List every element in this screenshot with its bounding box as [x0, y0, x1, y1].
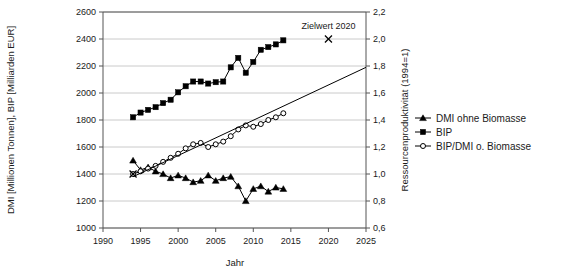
- data-point: [138, 110, 143, 115]
- data-point: [145, 107, 150, 112]
- data-point: [251, 124, 256, 129]
- tick-label-x: 2010: [243, 236, 263, 246]
- legend-marker-circle: [421, 144, 426, 149]
- y-axis-right-title: Ressourcenproduktivität (1994=1): [399, 49, 410, 192]
- tick-label-left: 2600: [76, 7, 96, 17]
- data-point: [236, 55, 241, 60]
- tick-label-right: 2,2: [373, 7, 386, 17]
- tick-label-left: 1200: [76, 196, 96, 206]
- data-point: [228, 134, 233, 139]
- data-point: [153, 105, 158, 110]
- data-point: [213, 80, 218, 85]
- y-axis-left-title: DMI [Millionen Tonnen], BIP [Milliarden …: [5, 26, 16, 214]
- tick-label-left: 2200: [76, 61, 96, 71]
- data-point: [191, 142, 196, 147]
- data-point: [243, 70, 248, 75]
- tick-label-x: 1995: [131, 236, 151, 246]
- data-point: [191, 79, 196, 84]
- data-point: [266, 45, 271, 50]
- tick-label-x: 2005: [206, 236, 226, 246]
- data-point: [213, 142, 218, 147]
- data-point: [228, 65, 233, 70]
- tick-label-left: 1600: [76, 142, 96, 152]
- data-point: [221, 79, 226, 84]
- tick-label-right: 2,0: [373, 34, 386, 44]
- tick-label-left: 2400: [76, 34, 96, 44]
- tick-label-right: 1,4: [373, 115, 386, 125]
- data-point: [258, 47, 263, 52]
- tick-label-x: 1990: [93, 236, 113, 246]
- tick-label-left: 1800: [76, 115, 96, 125]
- tick-label-left: 1400: [76, 169, 96, 179]
- legend-marker-square: [420, 129, 425, 134]
- tick-label-right: 1,2: [373, 142, 386, 152]
- tick-label-left: 1000: [76, 223, 96, 233]
- resource-productivity-chart: 100012001400160018002000220024002600 0,6…: [0, 0, 566, 272]
- data-point: [281, 38, 286, 43]
- chart-svg: 100012001400160018002000220024002600 0,6…: [0, 0, 566, 272]
- data-point: [176, 90, 181, 95]
- data-point: [266, 118, 271, 123]
- tick-label-x: 2025: [356, 236, 376, 246]
- data-point: [168, 97, 173, 102]
- legend-label: BIP/DMI o. Biomasse: [436, 141, 531, 152]
- tick-label-right: 1,0: [373, 169, 386, 179]
- data-point: [258, 122, 263, 127]
- x-axis-title: Jahr: [226, 257, 244, 268]
- data-point: [273, 115, 278, 120]
- legend-label: DMI ohne Biomasse: [436, 113, 526, 124]
- data-point: [206, 81, 211, 86]
- legend-label: BIP: [436, 127, 452, 138]
- tick-label-left: 2000: [76, 88, 96, 98]
- tick-label-right: 0,8: [373, 196, 386, 206]
- data-point: [221, 139, 226, 144]
- data-point: [281, 111, 286, 116]
- data-point: [206, 145, 211, 150]
- tick-label-right: 0,6: [373, 223, 386, 233]
- data-point: [130, 115, 135, 120]
- data-point: [273, 42, 278, 47]
- data-point: [251, 59, 256, 64]
- tick-label-right: 1,6: [373, 88, 386, 98]
- zielwert-2020-label: Zielwert 2020: [301, 21, 355, 31]
- tick-label-x: 2000: [168, 236, 188, 246]
- data-point: [161, 101, 166, 106]
- tick-label-x: 2020: [318, 236, 338, 246]
- data-point: [183, 84, 188, 89]
- tick-label-right: 1,8: [373, 61, 386, 71]
- data-point: [198, 79, 203, 84]
- tick-label-x: 2015: [281, 236, 301, 246]
- data-point: [183, 146, 188, 151]
